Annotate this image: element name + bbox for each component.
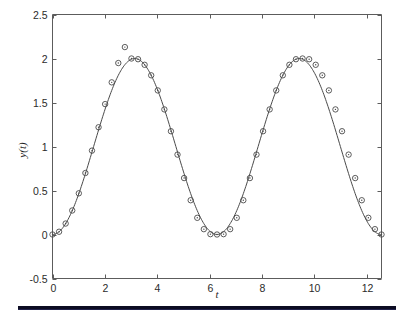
data-point-center xyxy=(131,58,132,59)
data-point-center xyxy=(72,210,73,211)
data-point-center xyxy=(229,228,230,229)
data-point-center xyxy=(361,200,362,201)
y-axis-title: y(t) xyxy=(16,142,29,159)
data-point-center xyxy=(341,131,342,132)
data-point-center xyxy=(282,75,283,76)
x-tick-label: 2 xyxy=(103,282,109,294)
plot-canvas: 024681012 -0.500.511.522.5 t y(t) xyxy=(0,0,401,319)
data-point-center xyxy=(91,150,92,151)
y-tick-label: 0 xyxy=(42,229,48,241)
data-point-center xyxy=(118,62,119,63)
x-tick-label: 0 xyxy=(51,282,57,294)
y-axis-ticks xyxy=(53,16,382,280)
y-tick-label: 1 xyxy=(42,141,48,153)
data-point-center xyxy=(144,64,145,65)
y-tick-label: -0.5 xyxy=(29,273,47,285)
data-point-center xyxy=(137,59,138,60)
x-tick-label: 10 xyxy=(309,282,321,294)
data-point-center xyxy=(256,154,257,155)
data-point-center xyxy=(322,75,323,76)
data-point-center xyxy=(368,217,369,218)
x-tick-label: 8 xyxy=(260,282,266,294)
data-point-center xyxy=(170,131,171,132)
data-point-center xyxy=(269,109,270,110)
data-point-center xyxy=(295,59,296,60)
data-point-center xyxy=(52,234,53,235)
data-point-center xyxy=(210,233,211,234)
x-tick-label: 6 xyxy=(208,282,214,294)
x-axis-title: t xyxy=(215,288,219,300)
data-point-center xyxy=(111,82,112,83)
data-point-center xyxy=(328,90,329,91)
data-point-center xyxy=(104,103,105,104)
data-point-center xyxy=(164,109,165,110)
data-point-center xyxy=(308,59,309,60)
data-point-center xyxy=(65,223,66,224)
data-point-center xyxy=(348,154,349,155)
data-point-center xyxy=(203,228,204,229)
data-point-center xyxy=(374,228,375,229)
data-point-center xyxy=(157,90,158,91)
data-series-line xyxy=(53,59,382,235)
data-point-center xyxy=(98,127,99,128)
data-point-center xyxy=(190,200,191,201)
x-tick-label: 4 xyxy=(155,282,161,294)
y-tick-label: 0.5 xyxy=(33,185,48,197)
data-point-center xyxy=(249,177,250,178)
y-tick-label: 2.5 xyxy=(33,9,48,21)
data-point-center xyxy=(335,109,336,110)
data-point-center xyxy=(262,131,263,132)
data-point-center xyxy=(276,90,277,91)
y-axis-tick-labels: -0.500.511.522.5 xyxy=(29,9,47,285)
data-point-center xyxy=(223,233,224,234)
data-series-markers xyxy=(50,44,384,237)
data-point-center xyxy=(183,177,184,178)
data-point-center xyxy=(315,64,316,65)
x-axis-ticks xyxy=(54,15,368,279)
axis-frame xyxy=(53,15,382,279)
data-point-center xyxy=(197,217,198,218)
data-point-center xyxy=(124,46,125,47)
data-point-center xyxy=(177,154,178,155)
bottom-divider-rule xyxy=(18,306,396,310)
data-point-center xyxy=(381,234,382,235)
data-point-center xyxy=(289,64,290,65)
y-tick-label: 1.5 xyxy=(33,97,48,109)
y-tick-label: 2 xyxy=(42,53,48,65)
data-point-center xyxy=(78,193,79,194)
data-point-center xyxy=(151,75,152,76)
data-point-center xyxy=(243,200,244,201)
data-point-center xyxy=(354,177,355,178)
x-tick-label: 12 xyxy=(362,282,374,294)
data-point-center xyxy=(216,234,217,235)
figure-container: 024681012 -0.500.511.522.5 t y(t) xyxy=(0,0,401,319)
data-point-center xyxy=(236,217,237,218)
data-point-center xyxy=(302,58,303,59)
x-axis-tick-labels: 024681012 xyxy=(51,282,374,294)
data-point-center xyxy=(58,231,59,232)
data-point-center xyxy=(85,172,86,173)
